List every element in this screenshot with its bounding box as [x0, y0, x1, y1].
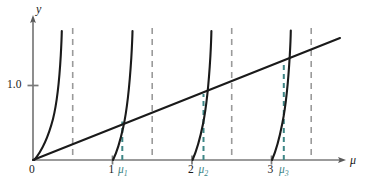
root-marker-lines — [122, 62, 283, 160]
x-tick-label-1: 1 — [109, 163, 115, 175]
plot-svg — [0, 0, 367, 186]
figure-canvas: y μ 1.0 0 1 2 3 μ1 μ2 μ3 — [0, 0, 367, 186]
y-tick-label-1.0: 1.0 — [7, 78, 21, 90]
y-axis-label: y — [36, 2, 41, 17]
tan-branch-curve-0 — [34, 31, 62, 160]
x-tick-label-2: 2 — [188, 163, 194, 175]
x-tick-label-0: 0 — [29, 163, 35, 175]
straight-line-series — [33, 38, 340, 160]
root-label-mu3-sub: 3 — [285, 169, 289, 178]
root-label-mu1-sub: 1 — [124, 169, 128, 178]
straight-line — [33, 38, 340, 160]
asymptote-lines — [73, 28, 312, 160]
x-axis-label: μ — [350, 153, 356, 168]
root-label-mu1: μ1 — [118, 163, 128, 178]
x-tick-label-3: 3 — [268, 163, 274, 175]
tan-branch-curve-3 — [272, 31, 291, 161]
root-label-mu3: μ3 — [279, 163, 289, 178]
root-label-mu2-sub: 2 — [204, 169, 208, 178]
root-label-mu2: μ2 — [199, 163, 209, 178]
